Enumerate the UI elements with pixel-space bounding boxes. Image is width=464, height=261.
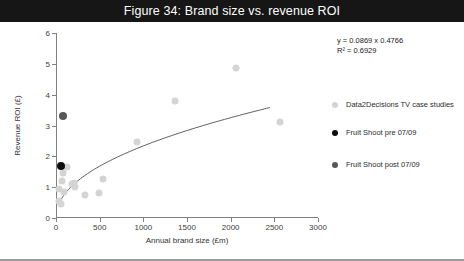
data-point: [59, 112, 67, 120]
figure-title-bar: Figure 34: Brand size vs. revenue ROI: [0, 0, 464, 22]
y-tick-label: 6: [46, 29, 50, 38]
legend-marker-icon: [332, 130, 338, 136]
x-axis-title: Annual brand size (£m): [56, 236, 318, 245]
legend-label: Data2Decisions TV case studies: [346, 100, 458, 110]
y-tick-label: 5: [46, 59, 50, 68]
x-tick-label: 2000: [222, 223, 240, 232]
legend-marker-icon: [332, 102, 338, 108]
y-tick-label: 1: [46, 183, 50, 192]
r-squared-line: R² = 0.6929: [337, 46, 403, 56]
data-point: [81, 191, 88, 198]
x-tick: [318, 218, 319, 222]
x-tick-label: 1500: [178, 223, 196, 232]
data-point: [57, 201, 64, 208]
x-tick: [100, 218, 101, 222]
legend-label: Fruit Shoot post 07/09: [346, 160, 458, 170]
y-tick-label: 2: [46, 152, 50, 161]
legend-item[interactable]: Fruit Shoot post 07/09: [332, 160, 458, 170]
x-tick-label: 1000: [134, 223, 152, 232]
data-point: [276, 119, 283, 126]
legend-marker-icon: [332, 162, 338, 168]
y-tick-label: 3: [46, 121, 50, 130]
data-point: [71, 184, 78, 191]
x-tick: [187, 218, 188, 222]
x-tick-label: 500: [93, 223, 106, 232]
data-point: [64, 164, 71, 171]
figure-container: Figure 34: Brand size vs. revenue ROI Re…: [0, 0, 464, 261]
x-tick: [143, 218, 144, 222]
legend-label: Fruit Shoot pre 07/09: [346, 128, 458, 138]
legend-item[interactable]: Fruit Shoot pre 07/09: [332, 128, 458, 138]
x-tick-label: 2500: [265, 223, 283, 232]
equation-line: y = 0.0869 x 0.4766: [337, 36, 403, 46]
legend: Data2Decisions TV case studiesFruit Shoo…: [332, 100, 458, 184]
data-point: [171, 97, 178, 104]
plot-area: 0123456 050010001500200025003000: [56, 33, 318, 218]
x-tick: [231, 218, 232, 222]
x-tick: [274, 218, 275, 222]
y-tick-label: 0: [46, 214, 50, 223]
data-point: [100, 176, 107, 183]
data-point: [59, 178, 66, 185]
legend-item[interactable]: Data2Decisions TV case studies: [332, 100, 458, 110]
data-point: [95, 190, 102, 197]
x-tick-label: 3000: [309, 223, 327, 232]
y-tick-label: 4: [46, 90, 50, 99]
data-point: [59, 170, 66, 177]
data-point: [57, 162, 65, 170]
data-point: [61, 188, 68, 195]
data-point: [134, 139, 141, 146]
data-point: [232, 65, 239, 72]
trendline-equation-annotation: y = 0.0869 x 0.4766 R² = 0.6929: [337, 36, 403, 56]
x-tick-label: 0: [54, 223, 58, 232]
x-tick: [56, 218, 57, 222]
figure-title: Figure 34: Brand size vs. revenue ROI: [0, 0, 464, 22]
y-axis-title: Revenue ROI (£): [12, 33, 24, 218]
